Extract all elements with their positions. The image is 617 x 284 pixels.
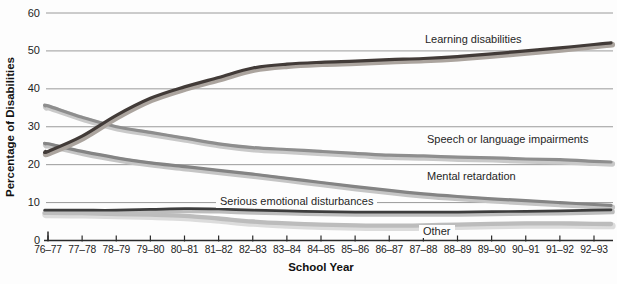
x-tick-label-84-85: 84–85 [302,244,340,256]
x-tick-label-87-88: 87–88 [404,244,442,256]
disability-percentage-line-chart: Percentage of Disabilities School Year L… [0,0,617,284]
x-tick-label-89-90: 89–90 [473,244,511,256]
y-tick-label-20: 20 [14,158,40,171]
x-tick-label-76-77: 76–77 [29,244,67,256]
x-axis [44,232,613,242]
x-tick-label-83-84: 83–84 [268,244,306,256]
x-tick-label-81-82: 81–82 [200,244,238,256]
x-tick-label-77-78: 77–78 [63,244,101,256]
series-label-speech-or-language-impairments: Speech or language impairments [427,133,588,146]
series-label-mental-retardation: Mental retardation [427,170,516,183]
series-label-learning-disabilities: Learning disabilities [425,33,522,46]
y-tick-label-30: 30 [14,120,40,133]
x-tick-label-80-81: 80–81 [166,244,204,256]
x-axis-title: School Year [221,261,421,273]
x-tick-label-85-86: 85–86 [336,244,374,256]
x-tick-label-86-87: 86–87 [370,244,408,256]
x-tick-label-88-89: 88–89 [439,244,477,256]
x-tick-label-92-93: 92–93 [575,244,613,256]
y-tick-label-40: 40 [14,82,40,95]
x-tick-label-90-91: 90–91 [507,244,545,256]
series-label-other: Other [419,225,455,238]
y-tick-label-10: 10 [14,196,40,209]
x-tick-label-82-83: 82–83 [234,244,272,256]
y-tick-label-50: 50 [14,44,40,57]
x-tick-label-78-79: 78–79 [97,244,135,256]
series-label-serious-emotional-disturbances: Serious emotional disturbances [216,195,377,208]
x-tick-label-79-80: 79–80 [131,244,169,256]
x-tick-label-91-92: 91–92 [541,244,579,256]
y-tick-label-60: 60 [14,7,40,20]
